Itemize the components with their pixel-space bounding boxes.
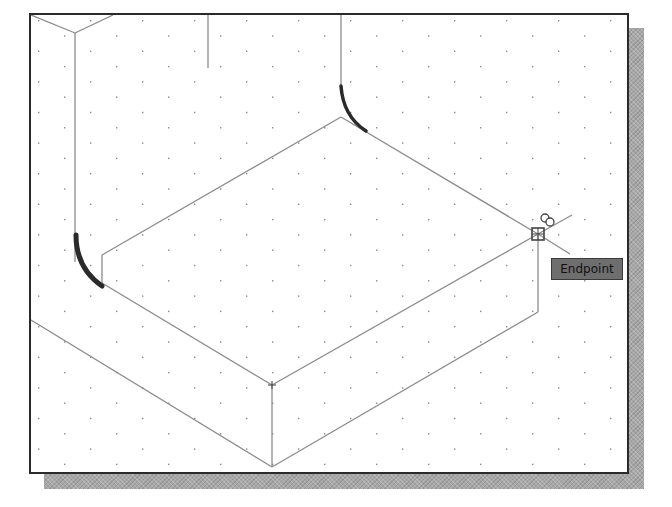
- grid-dot: [142, 81, 143, 82]
- grid-dot: [116, 127, 117, 128]
- grid-dot: [584, 250, 585, 251]
- grid-dot: [90, 112, 91, 113]
- grid-dot: [480, 35, 481, 36]
- grid-dot: [194, 357, 195, 358]
- grid-dot: [506, 142, 507, 143]
- grid-dot: [610, 51, 611, 52]
- grid-dot: [194, 142, 195, 143]
- grid-dot: [558, 295, 559, 296]
- grid-dot: [558, 357, 559, 358]
- edge-snap-extension-down: [538, 234, 570, 254]
- grid-dot: [298, 448, 299, 449]
- grid-dot: [402, 173, 403, 174]
- grid-dot: [142, 204, 143, 205]
- grid-dot: [64, 250, 65, 251]
- grid-dot: [558, 448, 559, 449]
- grid-dot: [584, 311, 585, 312]
- grid-dot: [246, 448, 247, 449]
- grid-dot: [584, 188, 585, 189]
- grid-dot: [168, 97, 169, 98]
- grid-dot: [454, 295, 455, 296]
- grid-dot: [610, 295, 611, 296]
- grid-dot: [38, 448, 39, 449]
- grid-dot: [116, 188, 117, 189]
- grid-dot: [38, 295, 39, 296]
- grid-dot: [350, 387, 351, 388]
- grid-dot: [532, 341, 533, 342]
- grid-dot: [506, 265, 507, 266]
- grid-dot: [272, 372, 273, 373]
- grid-dot: [402, 295, 403, 296]
- grid-dot: [350, 173, 351, 174]
- grid-dot: [168, 219, 169, 220]
- grid-dot: [272, 311, 273, 312]
- grid-dot: [376, 35, 377, 36]
- grid-dot: [324, 341, 325, 342]
- grid-dot: [38, 142, 39, 143]
- drawing-canvas[interactable]: [0, 0, 672, 507]
- grid-dot: [350, 265, 351, 266]
- grid-dot: [90, 265, 91, 266]
- grid-dot: [168, 433, 169, 434]
- grid-dot: [480, 127, 481, 128]
- grid-dot: [506, 418, 507, 419]
- grid-dot: [454, 448, 455, 449]
- grid-dot: [376, 372, 377, 373]
- grid-dot: [194, 234, 195, 235]
- grid-dot: [324, 66, 325, 67]
- grid-dot: [64, 403, 65, 404]
- grid-dot: [350, 204, 351, 205]
- grid-dot: [298, 295, 299, 296]
- grid-dot: [480, 158, 481, 159]
- grid-dot: [324, 188, 325, 189]
- grid-dot: [428, 188, 429, 189]
- grid-dot: [610, 418, 611, 419]
- grid-dot: [558, 173, 559, 174]
- grid-dot: [38, 234, 39, 235]
- grid-dot: [532, 311, 533, 312]
- grid-dot: [90, 81, 91, 82]
- grid-dot: [220, 403, 221, 404]
- grid-dot: [298, 81, 299, 82]
- grid-dot: [64, 97, 65, 98]
- grid-dot: [480, 250, 481, 251]
- grid-dot: [532, 35, 533, 36]
- grid-dot: [64, 311, 65, 312]
- grid-dot: [324, 35, 325, 36]
- grid-dot: [272, 127, 273, 128]
- grid-dot: [506, 20, 507, 21]
- grid-dot: [116, 311, 117, 312]
- grid-dot: [142, 51, 143, 52]
- grid-dot: [298, 173, 299, 174]
- grid-dot: [402, 326, 403, 327]
- grid-dot: [402, 142, 403, 143]
- grid-dot: [298, 112, 299, 113]
- grid-dot: [168, 127, 169, 128]
- grid-dot: [194, 51, 195, 52]
- grid-dot: [220, 35, 221, 36]
- grid-dot: [428, 311, 429, 312]
- grid-dot: [454, 265, 455, 266]
- grid-dot: [480, 372, 481, 373]
- grid-dot: [194, 204, 195, 205]
- grid-dot: [350, 326, 351, 327]
- grid-dot: [220, 280, 221, 281]
- grid-dot: [194, 112, 195, 113]
- grid-dot: [584, 372, 585, 373]
- grid-dot: [402, 204, 403, 205]
- grid-dot: [194, 81, 195, 82]
- grid-dot: [428, 250, 429, 251]
- grid-dot: [246, 173, 247, 174]
- grid-dot: [480, 341, 481, 342]
- grid-dot: [376, 433, 377, 434]
- grid-dot: [376, 341, 377, 342]
- grid-dot: [168, 311, 169, 312]
- grid-dot: [428, 280, 429, 281]
- grid-dot: [376, 311, 377, 312]
- grid-dot: [376, 97, 377, 98]
- grid-dot: [38, 173, 39, 174]
- grid-dot: [532, 403, 533, 404]
- grid-dot: [454, 418, 455, 419]
- grid-dot: [610, 234, 611, 235]
- grid-dot: [142, 295, 143, 296]
